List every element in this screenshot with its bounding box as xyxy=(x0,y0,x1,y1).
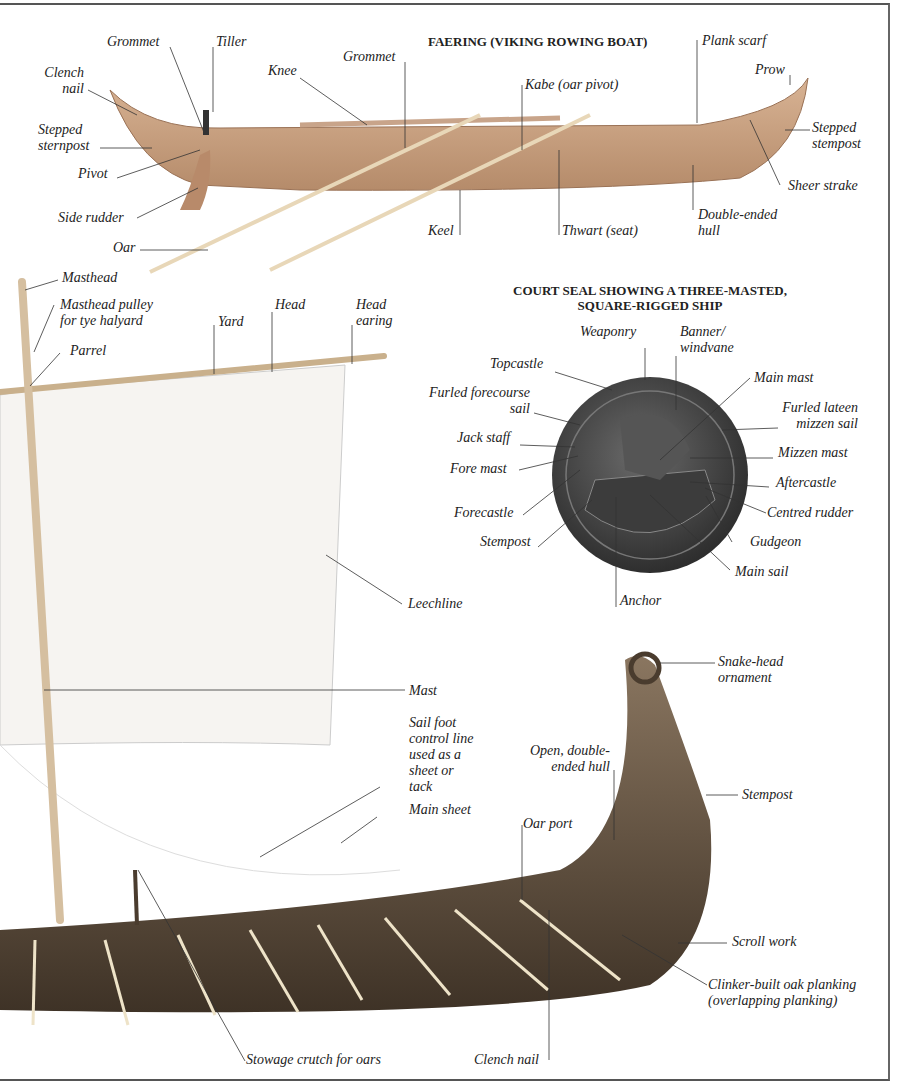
label-parrel: Parrel xyxy=(70,343,106,359)
label-snake-head-ornament: Snake-head ornament xyxy=(718,654,783,686)
label-stepped-sternpost: Stepped sternpost xyxy=(38,122,89,154)
label-stempost-seal: Stempost xyxy=(480,534,531,550)
label-aftercastle: Aftercastle xyxy=(776,475,836,491)
label-fore-mast: Fore mast xyxy=(450,461,507,477)
sail-rig xyxy=(0,282,400,920)
faering-boat xyxy=(110,78,808,272)
label-clinker-built-planking: Clinker-built oak planking (overlapping … xyxy=(708,977,856,1009)
label-grommet-stern: Grommet xyxy=(107,34,159,50)
label-yard: Yard xyxy=(218,314,243,330)
label-scroll-work: Scroll work xyxy=(732,934,796,950)
label-sail-foot-control-line: Sail foot control line used as a sheet o… xyxy=(409,715,473,795)
label-sheer-strake: Sheer strake xyxy=(788,178,858,194)
label-kabe: Kabe (oar pivot) xyxy=(525,77,618,93)
label-furled-forecourse-sail: Furled forecourse sail xyxy=(400,385,530,417)
label-oar: Oar xyxy=(113,240,136,256)
label-grommet-mid: Grommet xyxy=(343,49,395,65)
label-prow: Prow xyxy=(755,62,785,78)
label-anchor: Anchor xyxy=(620,593,661,609)
label-masthead: Masthead xyxy=(62,270,117,286)
label-keel: Keel xyxy=(428,223,454,239)
label-banner-windvane: Banner/ windvane xyxy=(680,324,734,356)
label-stepped-stempost: Stepped stempost xyxy=(812,120,861,152)
seal-title: COURT SEAL SHOWING A THREE-MASTED, SQUAR… xyxy=(490,283,810,313)
label-pivot: Pivot xyxy=(78,166,108,182)
label-oar-port: Oar port xyxy=(523,816,572,832)
label-main-sheet: Main sheet xyxy=(409,802,471,818)
label-main-mast: Main mast xyxy=(754,370,814,386)
label-centred-rudder: Centred rudder xyxy=(767,505,853,521)
label-mast: Mast xyxy=(409,683,437,699)
label-gudgeon: Gudgeon xyxy=(750,534,801,550)
label-jack-staff: Jack staff xyxy=(457,430,510,446)
label-main-sail: Main sail xyxy=(735,564,788,580)
label-mizzen-mast: Mizzen mast xyxy=(778,445,848,461)
label-furled-lateen-mizzen-sail: Furled lateen mizzen sail xyxy=(750,400,858,432)
label-thwart: Thwart (seat) xyxy=(562,223,638,239)
label-side-rudder: Side rudder xyxy=(58,210,124,226)
label-masthead-pulley: Masthead pulley for tye halyard xyxy=(60,297,153,329)
label-weaponry: Weaponry xyxy=(580,324,636,340)
label-leechline: Leechline xyxy=(408,596,462,612)
label-plank-scarf: Plank scarf xyxy=(702,33,766,49)
label-stowage-crutch: Stowage crutch for oars xyxy=(246,1052,381,1068)
faering-title: FAERING (VIKING ROWING BOAT) xyxy=(428,34,647,49)
label-double-ended-hull: Double-ended hull xyxy=(698,207,777,239)
label-forecastle: Forecastle xyxy=(454,505,513,521)
label-topcastle: Topcastle xyxy=(490,356,543,372)
label-open-double-ended-hull: Open, double- ended hull xyxy=(500,743,610,775)
label-tiller: Tiller xyxy=(216,34,246,50)
label-clench-nail-longship: Clench nail xyxy=(474,1052,539,1068)
label-stempost-longship: Stempost xyxy=(742,787,793,803)
label-head: Head xyxy=(275,297,305,313)
label-head-earing: Head earing xyxy=(356,297,393,329)
label-knee: Knee xyxy=(268,63,297,79)
label-clench-nail-faering: Clench nail xyxy=(38,65,84,97)
